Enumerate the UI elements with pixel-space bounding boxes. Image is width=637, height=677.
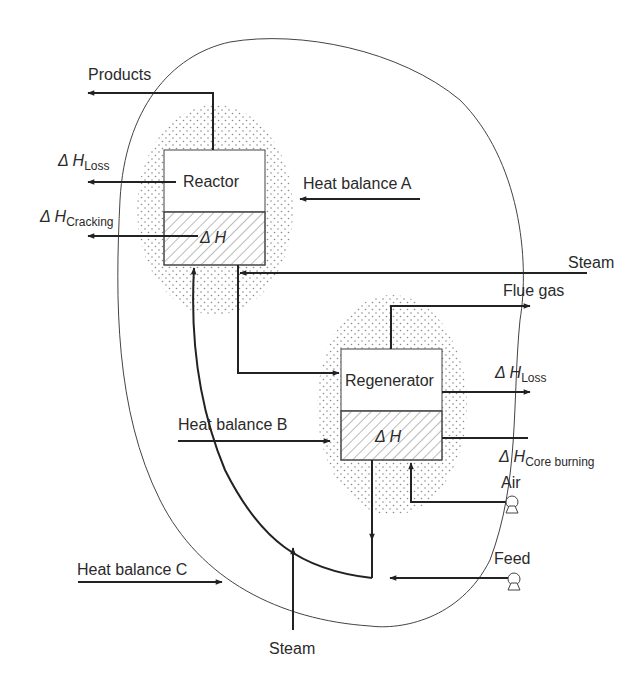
air-blower-icon — [506, 496, 518, 513]
regenerator-coke-burning-label: Δ HCore burning — [498, 448, 595, 469]
air-label: Air — [501, 474, 521, 491]
steam-bottom-label: Steam — [269, 640, 315, 657]
heat-balance-diagram: Products Δ HLoss Δ HCracking Reactor Δ H… — [0, 0, 637, 677]
reactor-loss-label: Δ HLoss — [57, 152, 110, 173]
reactor-delta-h-label: Δ H — [199, 229, 227, 246]
reactor-label: Reactor — [183, 173, 240, 190]
steam-top-label: Steam — [568, 254, 614, 271]
regenerator-label: Regenerator — [345, 372, 435, 389]
feed-label: Feed — [494, 550, 530, 567]
heat-balance-a-label: Heat balance A — [303, 175, 412, 192]
heat-balance-b-label: Heat balance B — [178, 416, 287, 433]
regenerator-loss-label: Δ HLoss — [494, 364, 547, 385]
regenerator-delta-h-label: Δ H — [374, 428, 402, 445]
reactor-cracking-label: Δ HCracking — [39, 208, 114, 229]
reactor-vessel — [164, 150, 265, 265]
flue-gas-label: Flue gas — [503, 282, 564, 299]
feed-pump-icon — [508, 573, 520, 590]
products-label: Products — [88, 66, 151, 83]
heat-balance-c-label: Heat balance C — [77, 561, 187, 578]
